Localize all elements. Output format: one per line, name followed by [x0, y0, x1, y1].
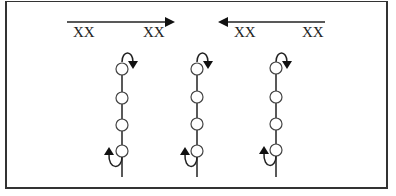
- down-arrow-icon: [203, 61, 213, 69]
- up-arrow-icon: [180, 147, 190, 155]
- down-arrow-icon: [282, 61, 292, 69]
- up-arrow-icon: [104, 147, 114, 155]
- left-arrow-label-start: XX: [234, 24, 256, 41]
- node-chain-3: [259, 53, 292, 177]
- node-chain-2: [180, 53, 213, 177]
- right-arrow-label-end: XX: [143, 24, 165, 41]
- up-arrow-icon: [259, 146, 269, 154]
- left-arrow-label-end: XX: [302, 24, 324, 41]
- down-arrow-icon: [128, 61, 138, 69]
- right-arrow-label-start: XX: [73, 24, 95, 41]
- node-chain-1: [104, 53, 138, 177]
- diagram-canvas: [0, 0, 396, 196]
